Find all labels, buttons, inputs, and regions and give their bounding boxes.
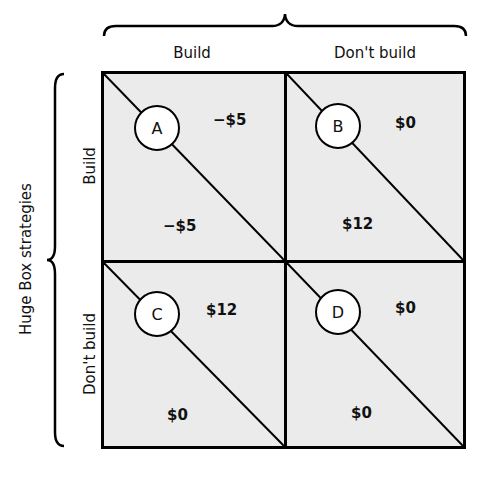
cell-a: A −$5 −$5 xyxy=(104,74,284,260)
outcome-circle-c: C xyxy=(134,291,180,337)
row-player-title: Huge Box strategies xyxy=(17,149,35,369)
column-label-dont-build: Don't build xyxy=(284,44,466,62)
cell-b: B $0 $12 xyxy=(287,74,463,260)
outcome-circle-d: D xyxy=(315,289,361,335)
column-label-build: Build xyxy=(101,44,283,62)
outcome-circle-b: B xyxy=(315,103,361,149)
payoff-lower-left: $12 xyxy=(342,215,373,233)
horizontal-divider xyxy=(104,260,463,263)
payoff-lower-left: $0 xyxy=(167,406,188,424)
payoff-lower-left: −$5 xyxy=(163,217,196,235)
payoff-lower-left: $0 xyxy=(351,404,372,422)
outcome-label: A xyxy=(152,119,163,138)
row-label-dont-build: Don't build xyxy=(81,260,99,449)
payoff-upper-right: $12 xyxy=(206,301,237,319)
column-player-brace xyxy=(100,8,470,38)
outcome-label: C xyxy=(151,305,162,324)
row-player-brace xyxy=(40,70,70,452)
outcome-label: B xyxy=(333,117,344,136)
diagonal-divider xyxy=(287,74,463,260)
payoff-matrix: A −$5 −$5 B $0 $12 C $12 $0 D $0 $0 xyxy=(101,71,466,449)
payoff-upper-right: $0 xyxy=(395,299,416,317)
row-label-build: Build xyxy=(81,72,99,261)
cell-d: D $0 $0 xyxy=(287,263,463,446)
outcome-label: D xyxy=(332,303,344,322)
payoff-upper-right: $0 xyxy=(395,114,416,132)
diagonal-divider xyxy=(104,263,284,446)
outcome-circle-a: A xyxy=(134,105,180,151)
cell-c: C $12 $0 xyxy=(104,263,284,446)
payoff-upper-right: −$5 xyxy=(213,111,246,129)
diagonal-divider xyxy=(287,263,463,446)
